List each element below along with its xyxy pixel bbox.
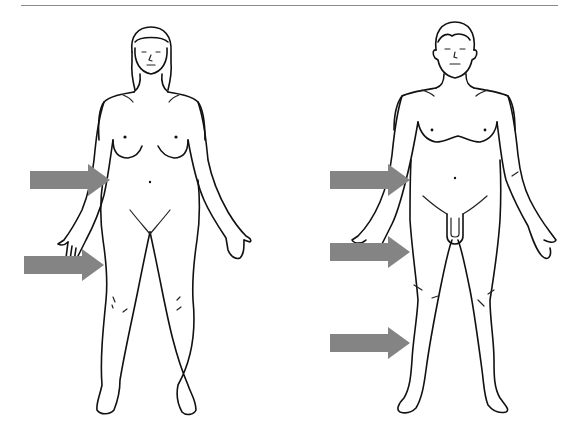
female-arrow-lower [24, 249, 104, 281]
male-arrow-lower [330, 327, 410, 359]
arrow-right-icon [330, 164, 410, 196]
male-arrow-middle [330, 236, 410, 268]
male-arrow-upper [330, 164, 410, 196]
arrow-right-icon [330, 236, 410, 268]
female-arrow-upper [30, 164, 110, 196]
arrow-right-icon [30, 164, 110, 196]
male-figure [352, 22, 556, 413]
anatomy-diagram [0, 0, 578, 435]
arrow-right-icon [24, 249, 104, 281]
female-figure [58, 27, 251, 414]
arrow-right-icon [330, 327, 410, 359]
